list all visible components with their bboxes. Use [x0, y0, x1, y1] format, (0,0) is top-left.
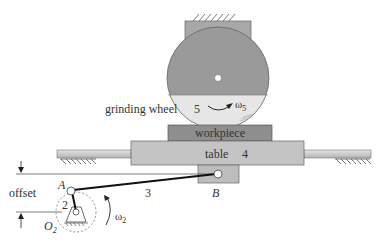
- pivot-O2-label: O2: [44, 219, 57, 235]
- joint-A: [67, 187, 75, 195]
- crank-2-label: 2: [62, 198, 68, 212]
- wheel-center-hole: [215, 75, 222, 82]
- rail-left: [57, 150, 131, 158]
- table-label: table: [205, 147, 228, 161]
- ground-hatch-left: [60, 159, 96, 164]
- grinding-wheel: [167, 27, 269, 129]
- offset-arrow-top-head: [18, 167, 24, 173]
- workpiece-label: workpiece: [195, 126, 245, 140]
- omega2-arrow: [106, 197, 110, 225]
- link-3-label: 3: [145, 186, 151, 200]
- wheel-number-label: 5: [194, 102, 200, 116]
- point-B-label: B: [212, 186, 220, 200]
- offset-arrow-bottom-head: [18, 213, 24, 219]
- crank-ground-hatch: [64, 223, 88, 226]
- ground-hatch-top: [193, 14, 235, 21]
- omega2-label: ω2: [115, 210, 126, 225]
- offset-label: offset: [9, 186, 37, 200]
- joint-O2: [73, 209, 79, 215]
- grinding-wheel-label: grinding wheel: [105, 102, 178, 116]
- point-A-label: A: [57, 178, 66, 192]
- omega2-arrowhead: [104, 195, 110, 201]
- mechanism-diagram: grinding wheel 5 ω5 workpiece table 4: [0, 0, 384, 247]
- table-number-label: 4: [242, 147, 248, 161]
- ground-hatch-right: [335, 159, 371, 164]
- rail-right: [304, 150, 371, 158]
- joint-B: [214, 170, 222, 178]
